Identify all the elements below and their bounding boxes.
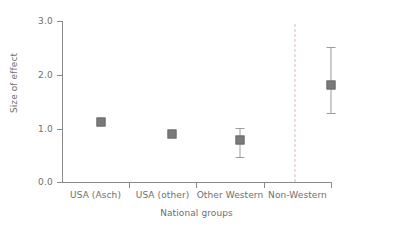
x-tick-mark-2 [196,183,197,188]
marker-usa-other [168,130,177,139]
errorbar-cap-upper-non-western [327,47,336,48]
y-tick-label-1: 1.0 [13,125,53,134]
x-axis-title: National groups [0,208,393,218]
y-tick-label-3: 3.0 [13,17,53,26]
errorbar-cap-lower-non-western [327,113,336,114]
marker-non-western [327,81,336,90]
x-axis-line [62,182,332,183]
y-tick-label-0: 0.0 [13,178,53,187]
x-tick-label-usa-asch: USA (Asch) [62,190,129,200]
y-tick-label-2: 2.0 [13,71,53,80]
y-tick-mark-0 [57,182,62,183]
x-tick-label-other-western: Other Western [196,190,264,200]
x-tick-mark-1 [129,183,130,188]
errorbar-cap-lower-other-western [236,157,245,158]
x-tick-label-usa-other: USA (other) [129,190,196,200]
chart-figure: 3.0 2.0 1.0 0.0 Size of effect USA (Asch… [0,0,393,227]
marker-usa-asch [97,118,106,127]
western-nonwestern-divider-line [295,24,296,182]
errorbar-cap-upper-other-western [236,128,245,129]
marker-other-western [236,136,245,145]
y-tick-mark-3 [57,21,62,22]
y-tick-mark-1 [57,129,62,130]
x-tick-label-non-western: Non-Western [264,190,331,200]
x-tick-mark-4 [331,183,332,188]
y-axis-title: Size of effect [9,23,19,143]
y-axis-line [62,21,63,183]
y-tick-mark-2 [57,75,62,76]
x-tick-mark-3 [264,183,265,188]
